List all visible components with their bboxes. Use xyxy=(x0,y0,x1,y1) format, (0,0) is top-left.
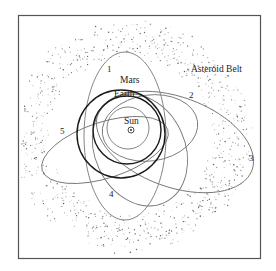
label-earth: Earth xyxy=(114,89,135,99)
label-sun: Sun xyxy=(124,116,139,126)
label-orbit-4: 4 xyxy=(109,189,114,199)
label-orbit-5: 5 xyxy=(60,126,65,136)
label-orbit-1: 1 xyxy=(107,64,112,74)
asteroid-orbit-diagram: Asteroid Belt Mars Earth Sun 1 2 3 4 5 xyxy=(0,0,276,271)
label-asteroid-belt: Asteroid Belt xyxy=(191,64,242,74)
label-mars: Mars xyxy=(120,75,140,85)
label-orbit-2: 2 xyxy=(189,90,194,100)
frame xyxy=(19,16,261,259)
sun-icon-dot xyxy=(130,129,132,131)
label-orbit-3: 3 xyxy=(249,153,254,163)
